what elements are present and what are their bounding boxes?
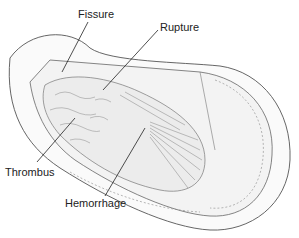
artery-diagram: Fissure Rupture Thrombus Hemorrhage — [0, 0, 299, 238]
artery-illustration — [0, 0, 299, 238]
label-fissure: Fissure — [78, 9, 114, 20]
label-thrombus: Thrombus — [5, 167, 55, 178]
label-hemorrhage: Hemorrhage — [65, 198, 126, 209]
label-rupture: Rupture — [160, 22, 199, 33]
